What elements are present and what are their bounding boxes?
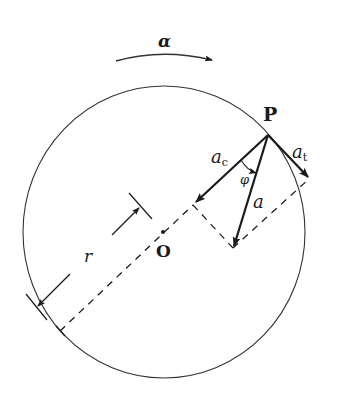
ac-label-main: a: [211, 146, 222, 167]
at-label-sub: t: [303, 151, 308, 164]
angular-acceleration-arc: [116, 54, 212, 61]
r-dimension-lower-arrow: [38, 274, 70, 306]
point-label-P: P: [263, 103, 277, 125]
radius-label-r: r: [84, 246, 93, 266]
diagram-canvas: α O r P ac at a φ: [0, 0, 337, 396]
radius-dashed-line: [60, 205, 193, 331]
phi-label: φ: [240, 172, 250, 187]
a-label: a: [253, 191, 264, 212]
r-dimension-lower-tick: [26, 294, 47, 320]
ac-label: ac: [211, 146, 228, 169]
r-dimension-upper-arrow: [112, 208, 139, 235]
alpha-label: α: [158, 31, 171, 51]
at-label: at: [292, 141, 308, 164]
center-point-O: [161, 230, 165, 234]
at-label-main: a: [292, 141, 303, 162]
ac-projection-dashed: [193, 205, 233, 248]
ac-label-sub: c: [222, 156, 228, 169]
center-label-O: O: [156, 241, 171, 261]
